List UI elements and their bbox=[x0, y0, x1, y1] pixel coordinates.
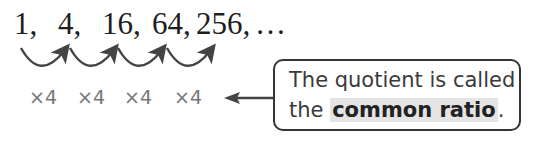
pointer-arrow-icon bbox=[224, 92, 273, 104]
callout-line-1: The quotient is called bbox=[289, 65, 515, 95]
highlighted-term: common ratio bbox=[330, 98, 498, 122]
multiplier-label: ×4 bbox=[124, 86, 152, 108]
callout-box: The quotient is called the common ratio. bbox=[273, 59, 521, 131]
callout-suffix: . bbox=[498, 98, 505, 122]
callout-line-2: the common ratio. bbox=[289, 95, 515, 125]
multiplier-label: ×4 bbox=[29, 86, 57, 108]
multiplier-label: ×4 bbox=[77, 86, 105, 108]
callout-prefix: the bbox=[289, 98, 330, 122]
curved-arrow-icon bbox=[21, 48, 210, 66]
multiplier-label: ×4 bbox=[174, 86, 202, 108]
callout-text: The quotient is called the common ratio. bbox=[289, 65, 515, 125]
